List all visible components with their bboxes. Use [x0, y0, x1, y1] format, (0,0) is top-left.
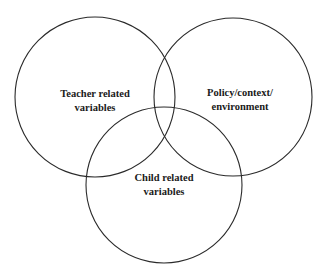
- label-policy-line2: environment: [212, 101, 269, 112]
- set-child: Child related variables: [86, 107, 242, 263]
- label-teacher-line2: variables: [75, 102, 116, 113]
- label-child-line1: Child related: [134, 172, 193, 183]
- circle-child: [86, 107, 242, 263]
- label-child-line2: variables: [144, 186, 185, 197]
- set-policy: Policy/context/ environment: [154, 18, 312, 176]
- label-teacher-line1: Teacher related: [60, 88, 130, 99]
- venn-diagram: Teacher related variables Policy/context…: [0, 0, 323, 277]
- label-policy-line1: Policy/context/: [207, 87, 274, 98]
- set-teacher: Teacher related variables: [15, 17, 175, 177]
